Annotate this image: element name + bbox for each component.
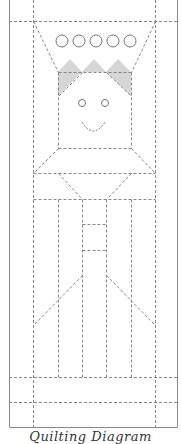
smile-icon <box>82 122 105 131</box>
button-circle-icon <box>56 35 68 47</box>
hat-buttons <box>56 35 136 47</box>
left-eye-icon <box>79 100 86 107</box>
right-eye-icon <box>102 100 109 107</box>
button-circle-icon <box>73 35 85 47</box>
hair-shading <box>58 59 131 96</box>
button-circle-icon <box>107 35 119 47</box>
button-circle-icon <box>124 35 136 47</box>
diagram-caption: Quilting Diagram <box>0 429 181 444</box>
button-circle-icon <box>90 35 102 47</box>
face <box>79 100 109 132</box>
